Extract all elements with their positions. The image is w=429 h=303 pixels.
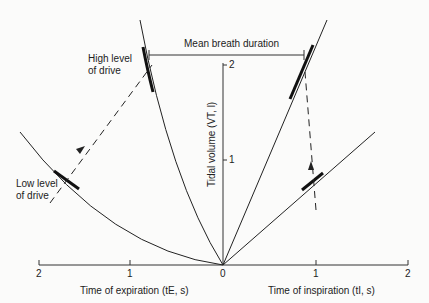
inspiration-low-drive-line (223, 132, 375, 265)
y-tick-1: 1 (229, 154, 235, 165)
arrowhead-icon (76, 146, 85, 154)
x-tick-origin: 0 (220, 268, 226, 279)
inspiration-high-drive-line (223, 20, 327, 265)
arrowhead-icon (308, 161, 314, 170)
low-drive-label: Low level of drive (16, 178, 58, 202)
low-to-high-expiration-arrow (50, 65, 152, 203)
y-tick-2: 2 (229, 59, 235, 70)
high-drive-label: High level of drive (88, 53, 132, 77)
x-tick-exp-1: 1 (127, 268, 133, 279)
x-tick-insp-1: 1 (313, 268, 319, 279)
x-axis-label-expiration: Time of expiration (tE, s) (80, 285, 189, 297)
low-to-high-inspiration-arrow (305, 72, 316, 210)
x-tick-insp-2: 2 (405, 268, 411, 279)
x-tick-exp-2: 2 (36, 268, 42, 279)
mean-breath-label: Mean breath duration (184, 38, 279, 50)
y-axis-label: Tidal volume (VT, l) (206, 102, 217, 187)
x-axis-label-inspiration: Time of inspiration (tI, s) (268, 285, 375, 297)
